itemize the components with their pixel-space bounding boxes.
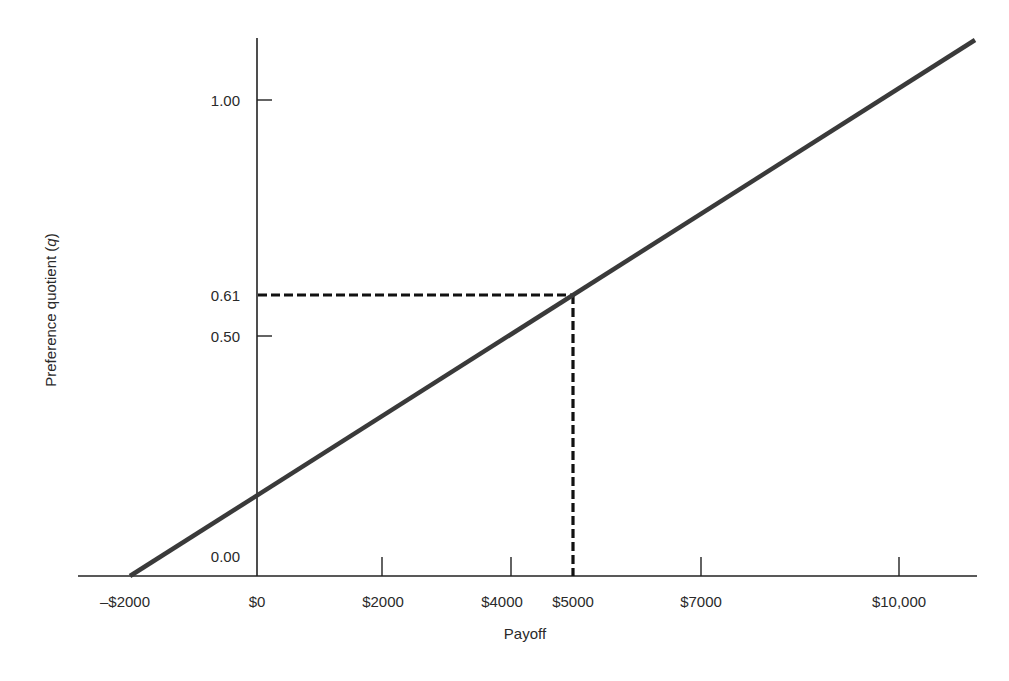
y-tick-label-0.61: 0.61 — [211, 287, 240, 304]
x-ticks — [382, 557, 899, 576]
y-axis-title: Preference quotient (q) — [42, 233, 59, 386]
x-tick-label-7000: $7000 — [680, 593, 722, 610]
y-tick-label-1.00: 1.00 — [211, 92, 240, 109]
chart: 1.00 0.61 0.50 0.00 –$2000 $0 $2000 $400… — [0, 0, 1009, 681]
x-tick-label-10000: $10,000 — [872, 593, 926, 610]
x-tick-label-4000: $4000 — [481, 593, 523, 610]
reference-lines — [258, 295, 573, 576]
x-tick-label-2000: $2000 — [362, 593, 404, 610]
y-ticks — [257, 100, 272, 336]
x-axis-title: Payoff — [504, 625, 547, 642]
x-tick-label-neg2000: –$2000 — [100, 593, 150, 610]
x-tick-label-0: $0 — [249, 593, 266, 610]
x-tick-label-5000: $5000 — [552, 593, 594, 610]
y-tick-label-0.00: 0.00 — [211, 548, 240, 565]
y-tick-label-0.50: 0.50 — [211, 328, 240, 345]
